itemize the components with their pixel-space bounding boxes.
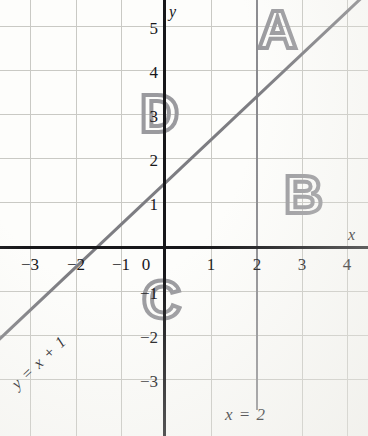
y-tick-label: 5 (118, 20, 158, 37)
y-tick-label: 4 (118, 64, 158, 81)
gridline-horizontal (0, 291, 368, 292)
gridline-horizontal (0, 158, 368, 159)
y-tick-label: 3 (118, 108, 158, 125)
gridline-vertical (347, 0, 348, 436)
x-tick-label: 1 (191, 256, 231, 273)
y-tick-label: 2 (118, 152, 158, 169)
gridline-vertical (211, 0, 212, 436)
x-axis-name-label: x (348, 227, 355, 243)
gridline-horizontal (0, 114, 368, 115)
x-tick-label: 0 (126, 256, 166, 273)
y-axis (163, 0, 166, 436)
y-tick-label: −2 (112, 329, 158, 346)
y-tick-label: −3 (112, 373, 158, 390)
vertical-line-equation-label: x = 2 (225, 406, 266, 423)
vertical-line-x-equals-2 (256, 0, 258, 410)
y-tick-label: −1 (112, 285, 158, 302)
gridline-horizontal (0, 26, 368, 27)
x-tick-label: 4 (327, 256, 367, 273)
x-tick-label: −2 (56, 256, 96, 273)
y-tick-label: 1 (118, 196, 158, 213)
graph-figure: A B C D y x −3 −2 −1 0 1 2 3 4 5 4 3 2 1… (0, 0, 368, 436)
region-label-a: A (258, 2, 297, 56)
gridline-vertical (76, 0, 77, 436)
gridline-horizontal (0, 379, 368, 380)
gridline-horizontal (0, 70, 368, 71)
x-tick-label: 3 (282, 256, 322, 273)
x-tick-label: −3 (10, 256, 50, 273)
x-tick-label: 2 (237, 256, 277, 273)
y-axis-name-label: y (169, 4, 176, 20)
x-axis (0, 246, 368, 249)
region-label-b: B (284, 167, 323, 221)
